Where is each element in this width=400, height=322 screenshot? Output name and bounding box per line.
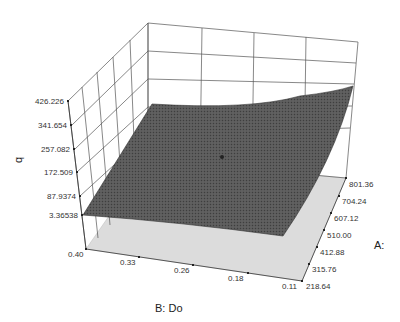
a-axis-title: A:: [374, 239, 384, 251]
design-point-marker: [220, 155, 224, 159]
q-tick-label: 172.509: [44, 168, 73, 177]
a-tick-label: 607.12: [334, 214, 359, 223]
b-tick-label: 0.26: [174, 266, 190, 275]
q-tick-label: 341.654: [38, 121, 67, 130]
q-tick-label: 3.36538: [49, 211, 78, 220]
surface-plot: 426.226 341.654 257.082 172.509 87.9374 …: [0, 0, 400, 322]
b-tick-label: 0.18: [228, 274, 244, 283]
a-tick-label: 412.88: [320, 248, 345, 257]
a-tick-label: 801.36: [349, 180, 374, 189]
a-tick-label: 315.76: [312, 265, 337, 274]
a-tick-label: 704.24: [342, 197, 367, 206]
a-tick-label: 510.00: [327, 231, 352, 240]
b-tick-label: 0.11: [282, 282, 298, 291]
q-tick-label: 426.226: [35, 97, 64, 106]
q-axis-title: q: [12, 157, 24, 163]
b-axis-title: B: Do: [155, 302, 183, 314]
a-tick-label: 218.64: [306, 282, 331, 291]
b-tick-label: 0.33: [120, 258, 136, 267]
b-tick-label: 0.40: [68, 250, 84, 259]
q-tick-label: 257.082: [41, 145, 70, 154]
q-tick-label: 87.9374: [47, 192, 76, 201]
